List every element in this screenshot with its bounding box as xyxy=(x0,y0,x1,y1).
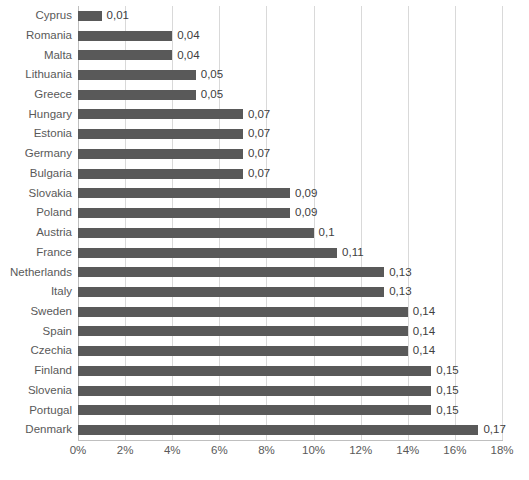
bar-row: 0,15 xyxy=(78,401,502,421)
bar-row: 0,11 xyxy=(78,243,502,263)
bar-row: 0,09 xyxy=(78,203,502,223)
bar-value-label: 0,15 xyxy=(436,365,458,377)
category-label: Germany xyxy=(25,144,72,164)
x-axis-baseline xyxy=(78,440,503,441)
y-axis-category-labels: CyprusRomaniaMaltaLithuaniaGreeceHungary… xyxy=(0,6,72,440)
bar-value-label: 0,1 xyxy=(319,227,335,239)
bar-row: 0,1 xyxy=(78,223,502,243)
bar-row: 0,05 xyxy=(78,65,502,85)
category-label: Slovakia xyxy=(29,184,72,204)
bar-row: 0,09 xyxy=(78,184,502,204)
category-label: Greece xyxy=(34,85,72,105)
x-tick-label: 8% xyxy=(258,445,275,457)
bar-row: 0,13 xyxy=(78,262,502,282)
x-tick-label: 18% xyxy=(490,445,513,457)
bar-value-label: 0,09 xyxy=(295,188,317,200)
category-label: France xyxy=(36,243,72,263)
bar-row: 0,15 xyxy=(78,381,502,401)
category-label: Spain xyxy=(43,322,72,342)
x-tick-label: 16% xyxy=(443,445,466,457)
bar-value-label: 0,07 xyxy=(248,109,270,121)
bar-row: 0,14 xyxy=(78,322,502,342)
bar-value-label: 0,05 xyxy=(201,89,223,101)
bar[interactable] xyxy=(78,405,431,415)
gridline-18% xyxy=(502,6,503,440)
bar-value-label: 0,09 xyxy=(295,207,317,219)
bar[interactable] xyxy=(78,386,431,396)
bar-value-label: 0,15 xyxy=(436,385,458,397)
bar[interactable] xyxy=(78,31,172,41)
bar-row: 0,17 xyxy=(78,420,502,440)
bar[interactable] xyxy=(78,287,384,297)
bar[interactable] xyxy=(78,11,102,21)
bar-value-label: 0,07 xyxy=(248,128,270,140)
bar-value-label: 0,01 xyxy=(107,10,129,22)
bar-row: 0,04 xyxy=(78,45,502,65)
x-tick-label: 14% xyxy=(396,445,419,457)
category-label: Netherlands xyxy=(10,262,72,282)
bar[interactable] xyxy=(78,50,172,60)
bar-value-label: 0,04 xyxy=(177,30,199,42)
bar-value-label: 0,17 xyxy=(483,424,505,436)
category-label: Finland xyxy=(34,361,72,381)
category-label: Lithuania xyxy=(25,65,72,85)
category-label: Estonia xyxy=(34,124,72,144)
bar[interactable] xyxy=(78,326,408,336)
x-tick-label: 4% xyxy=(164,445,181,457)
bar-value-label: 0,13 xyxy=(389,267,411,279)
x-axis-tick-labels: 0%2%4%6%8%10%12%14%16%18% xyxy=(78,445,502,467)
category-label: Sweden xyxy=(30,302,72,322)
bar-value-label: 0,11 xyxy=(342,247,364,259)
bar-chart: CyprusRomaniaMaltaLithuaniaGreeceHungary… xyxy=(0,0,529,480)
bar-value-label: 0,07 xyxy=(248,148,270,160)
plot-area: 0,010,040,040,050,050,070,070,070,070,09… xyxy=(78,6,502,440)
category-label: Poland xyxy=(36,203,72,223)
bar-row: 0,13 xyxy=(78,282,502,302)
bar-value-label: 0,07 xyxy=(248,168,270,180)
bar-value-label: 0,04 xyxy=(177,50,199,62)
bar-row: 0,14 xyxy=(78,341,502,361)
bar-row: 0,07 xyxy=(78,105,502,125)
bar[interactable] xyxy=(78,248,337,258)
category-label: Austria xyxy=(36,223,72,243)
category-label: Italy xyxy=(51,282,72,302)
bar-row: 0,04 xyxy=(78,26,502,46)
category-label: Bulgaria xyxy=(30,164,72,184)
bar-row: 0,01 xyxy=(78,6,502,26)
bar-value-label: 0,05 xyxy=(201,69,223,81)
bar[interactable] xyxy=(78,346,408,356)
x-tick-label: 6% xyxy=(211,445,228,457)
bar-row: 0,14 xyxy=(78,302,502,322)
category-label: Slovenia xyxy=(28,381,72,401)
category-label: Malta xyxy=(44,45,72,65)
bar[interactable] xyxy=(78,425,478,435)
x-tick-label: 10% xyxy=(302,445,325,457)
bar-row: 0,07 xyxy=(78,144,502,164)
bar[interactable] xyxy=(78,70,196,80)
x-tick-label: 0% xyxy=(70,445,87,457)
bar-row: 0,05 xyxy=(78,85,502,105)
bar[interactable] xyxy=(78,366,431,376)
bar-row: 0,15 xyxy=(78,361,502,381)
x-tick-label: 12% xyxy=(349,445,372,457)
bar[interactable] xyxy=(78,188,290,198)
bar-row: 0,07 xyxy=(78,164,502,184)
bar[interactable] xyxy=(78,267,384,277)
bar[interactable] xyxy=(78,149,243,159)
bar[interactable] xyxy=(78,129,243,139)
bar-value-label: 0,14 xyxy=(413,306,435,318)
bar[interactable] xyxy=(78,109,243,119)
bar[interactable] xyxy=(78,208,290,218)
category-label: Romania xyxy=(26,26,72,46)
category-label: Denmark xyxy=(25,420,72,440)
bar[interactable] xyxy=(78,169,243,179)
category-label: Czechia xyxy=(30,341,72,361)
bar-row: 0,07 xyxy=(78,124,502,144)
bar[interactable] xyxy=(78,307,408,317)
bar-value-label: 0,14 xyxy=(413,345,435,357)
category-label: Portugal xyxy=(29,401,72,421)
bar-rows: 0,010,040,040,050,050,070,070,070,070,09… xyxy=(78,6,502,440)
bar[interactable] xyxy=(78,228,314,238)
bar[interactable] xyxy=(78,90,196,100)
bar-value-label: 0,15 xyxy=(436,405,458,417)
